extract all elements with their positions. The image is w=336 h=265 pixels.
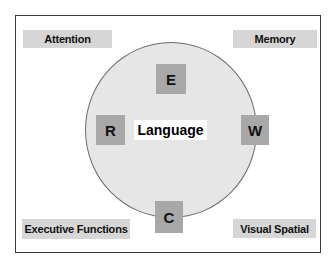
language-label-box: Language (134, 120, 207, 140)
component-c-label: C (164, 209, 175, 226)
visual-spatial-label: Visual Spatial (240, 223, 309, 235)
component-r-box: R (96, 115, 125, 145)
memory-box: Memory (233, 30, 317, 48)
visual-spatial-box: Visual Spatial (233, 219, 316, 238)
attention-label: Attention (44, 33, 90, 45)
component-r-label: R (105, 122, 116, 139)
component-w-label: W (248, 122, 262, 139)
memory-label: Memory (255, 33, 296, 45)
language-label: Language (137, 122, 203, 138)
component-e-box: E (156, 64, 186, 94)
executive-functions-label: Executive Functions (24, 223, 127, 235)
executive-functions-box: Executive Functions (22, 219, 130, 239)
component-e-label: E (166, 71, 176, 88)
component-w-box: W (241, 115, 269, 145)
component-c-box: C (155, 201, 183, 233)
attention-box: Attention (23, 30, 112, 48)
